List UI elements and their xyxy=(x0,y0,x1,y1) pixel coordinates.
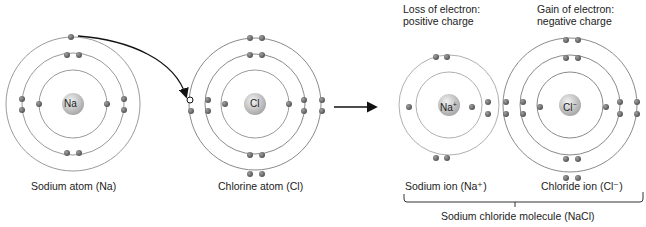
gain-note: Gain of electron:negative charge xyxy=(537,3,614,27)
vacancy xyxy=(187,97,193,103)
sodium-ion-nucleus-label: Na+ xyxy=(440,99,457,114)
molecule-bracket xyxy=(404,192,643,207)
chlorine-atom-caption: Chlorine atom (Cl) xyxy=(218,180,303,192)
chlorine-nucleus-label: Cl xyxy=(250,98,259,110)
molecule-caption: Sodium chloride molecule (NaCl) xyxy=(441,210,594,222)
loss-note: Loss of electron:positive charge xyxy=(403,3,480,27)
chloride-ion-nucleus-label: Cl− xyxy=(563,99,577,114)
ionic-bond-diagram xyxy=(0,0,646,227)
chloride-ion-caption: Chloride ion (Cl⁻) xyxy=(541,180,623,192)
electron-transfer-arrow xyxy=(78,36,186,96)
sodium-nucleus-label: Na xyxy=(64,98,77,110)
sodium-atom-caption: Sodium atom (Na) xyxy=(31,180,116,192)
sodium-ion-caption: Sodium ion (Na⁺) xyxy=(405,180,487,192)
